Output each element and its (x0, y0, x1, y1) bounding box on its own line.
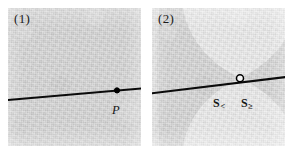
point-label-P: P (112, 104, 120, 117)
sheet-label-less-subscript: < (220, 101, 225, 111)
panel-2: (2) S< S≥ (152, 8, 285, 146)
panel-2-background (152, 8, 285, 146)
sheet-label-greater-subscript: ≥ (248, 101, 253, 111)
panel-1-tag: (1) (14, 12, 30, 25)
panel-1-background (8, 8, 141, 146)
panel-2-tag: (2) (158, 12, 174, 25)
sheet-label-greater: S≥ (241, 97, 253, 111)
sheet-label-less: S< (213, 97, 225, 111)
sheet-label-less-base: S (213, 96, 220, 110)
sheet-label-greater-base: S (241, 96, 248, 110)
figure-root: (1) P (2) S< (0, 0, 292, 157)
panel-1: (1) P (8, 8, 141, 146)
